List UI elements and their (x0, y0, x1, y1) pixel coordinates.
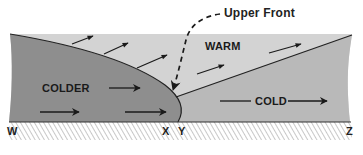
ground-point-y: Y (178, 125, 186, 137)
colder-air-label: COLDER (42, 82, 90, 94)
ground-point-w: W (7, 125, 18, 137)
ground-point-z: Z (346, 125, 353, 137)
cold-air-label: COLD (255, 95, 287, 107)
upper-front-label: Upper Front (224, 6, 295, 20)
ground-point-x: X (162, 125, 170, 137)
warm-air-label: WARM (205, 40, 241, 52)
